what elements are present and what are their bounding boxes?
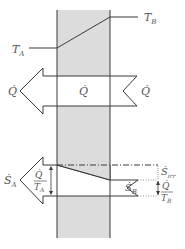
heat-left-label: Q̇ [8, 85, 17, 98]
dim-right-arrow-up [156, 181, 160, 185]
heat-center-label: Q̇ [79, 85, 88, 98]
temp-b-label: TB [144, 11, 157, 26]
heat-right-label: Q̇ [141, 85, 150, 98]
temp-a-label: TA [12, 43, 24, 58]
wall-flow-diagram: TA TB Q̇ Q̇ Q̇ ṠA ṠB Ṡirr Q̇ TA [0, 0, 185, 249]
dim-right-arrow-down [156, 191, 160, 195]
svg-text:TB: TB [161, 193, 172, 204]
entropy-a-label: ṠA [4, 173, 17, 189]
wall [57, 10, 110, 238]
svg-text:Q̇: Q̇ [162, 180, 170, 191]
entropy-irr-label: Ṡirr [161, 166, 177, 179]
right-fraction: Q̇ TB [161, 180, 173, 204]
svg-text:Q̇: Q̇ [35, 169, 43, 180]
